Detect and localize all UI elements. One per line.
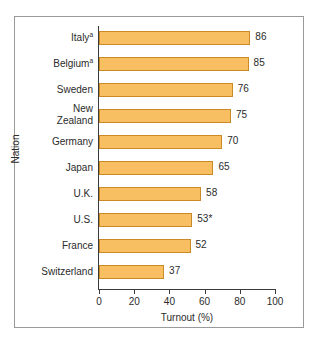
x-axis-tick xyxy=(275,290,276,294)
category-label: Japan xyxy=(7,161,93,175)
bar-value-label: 75 xyxy=(236,108,247,122)
category-label: New Zealand xyxy=(7,103,93,127)
bar xyxy=(99,213,192,227)
bar-value-label: 85 xyxy=(254,56,265,70)
chart-figure: Nation Italya86Belgiuma85Sweden76New Zea… xyxy=(0,0,318,344)
bar-value-label: 53* xyxy=(197,212,212,226)
bar xyxy=(99,161,213,175)
x-axis-tick xyxy=(240,290,241,294)
x-axis-tick-label: 40 xyxy=(154,295,184,308)
bar-row: U.S.53* xyxy=(99,208,275,234)
category-label: Germany xyxy=(7,135,93,149)
bar-row: Sweden76 xyxy=(99,78,275,104)
bar-row: Belgiuma85 xyxy=(99,52,275,78)
category-label: Belgiuma xyxy=(7,57,93,71)
bar xyxy=(99,83,233,97)
x-axis-line xyxy=(98,289,276,290)
bar-value-label: 65 xyxy=(218,160,229,174)
bar-row: France52 xyxy=(99,234,275,260)
bar-row: Italya86 xyxy=(99,26,275,52)
plot-area: Italya86Belgiuma85Sweden76New Zealand75G… xyxy=(99,26,275,289)
x-axis-tick xyxy=(99,290,100,294)
bar-value-label: 52 xyxy=(196,238,207,252)
x-axis-tick-label: 80 xyxy=(225,295,255,308)
footnote-marker: a xyxy=(89,31,93,38)
category-label: Switzerland xyxy=(7,265,93,279)
bar-row: Germany70 xyxy=(99,130,275,156)
bar xyxy=(99,239,191,253)
x-axis-tick-label: 20 xyxy=(119,295,149,308)
category-label: Italya xyxy=(7,31,93,45)
footnote-marker: a xyxy=(89,57,93,64)
bar-row: Switzerland37 xyxy=(99,260,275,286)
bar xyxy=(99,109,231,123)
category-label: U.K. xyxy=(7,187,93,201)
bar xyxy=(99,187,201,201)
category-label: France xyxy=(7,239,93,253)
x-axis-tick xyxy=(205,290,206,294)
bar-value-label: 70 xyxy=(227,134,238,148)
bar xyxy=(99,31,250,45)
x-axis-tick-label: 0 xyxy=(84,295,114,308)
x-axis-title: Turnout (%) xyxy=(99,311,275,324)
x-axis-tick xyxy=(169,290,170,294)
bar xyxy=(99,57,249,71)
x-axis-tick-label: 60 xyxy=(190,295,220,308)
bar-row: New Zealand75 xyxy=(99,104,275,130)
bar xyxy=(99,265,164,279)
bar xyxy=(99,135,222,149)
category-label: Sweden xyxy=(7,83,93,97)
bar-value-label: 86 xyxy=(255,30,266,44)
bar-value-label: 58 xyxy=(206,186,217,200)
x-axis-tick-label: 100 xyxy=(260,295,290,308)
bar-row: U.K.58 xyxy=(99,182,275,208)
category-label: U.S. xyxy=(7,213,93,227)
x-axis-tick xyxy=(134,290,135,294)
bar-value-label: 76 xyxy=(238,82,249,96)
bar-row: Japan65 xyxy=(99,156,275,182)
bar-value-label: 37 xyxy=(169,264,180,278)
